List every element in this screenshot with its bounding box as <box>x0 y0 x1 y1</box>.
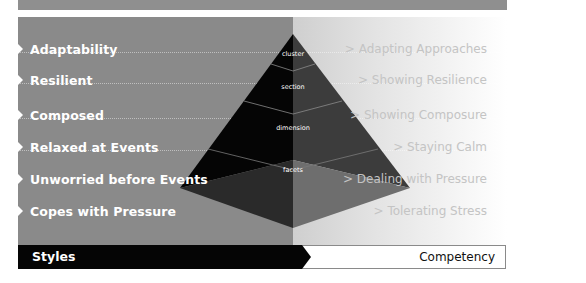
styles-footer-label: Styles <box>32 245 75 269</box>
competency-item: > Staying Calm <box>393 137 487 157</box>
competency-footer-label: Competency <box>419 246 495 268</box>
competency-item: > Tolerating Stress <box>374 201 487 221</box>
style-item: Composed <box>18 105 104 125</box>
pyramid-level-section: section <box>281 83 304 91</box>
competency-label: > Dealing with Pressure <box>343 172 487 186</box>
style-item: Adaptability <box>18 39 118 59</box>
style-label: Copes with Pressure <box>30 204 176 219</box>
styles-footer: Styles <box>18 245 302 269</box>
competency-label: > Showing Composure <box>350 108 487 122</box>
style-label: Relaxed at Events <box>30 140 159 155</box>
style-item: Copes with Pressure <box>18 201 176 221</box>
competency-label: > Staying Calm <box>393 140 487 154</box>
chevron-right-icon <box>18 142 23 152</box>
style-label: Adaptability <box>30 42 118 57</box>
chevron-right-icon <box>18 75 23 85</box>
style-item: Relaxed at Events <box>18 137 159 157</box>
competency-label: > Adapting Approaches <box>345 42 487 56</box>
style-label: Resilient <box>30 73 93 88</box>
chevron-right-icon <box>18 174 23 184</box>
arrow-right-icon <box>302 245 311 269</box>
style-label: Unworried before Events <box>30 172 208 187</box>
pyramid-level-dimension: dimension <box>276 124 310 132</box>
competency-item: > Adapting Approaches <box>345 39 487 59</box>
chevron-right-icon <box>18 44 23 54</box>
competency-item: > Showing Resilience <box>358 70 487 90</box>
chevron-right-icon <box>18 206 23 216</box>
competency-item: > Showing Composure <box>350 105 487 125</box>
chevron-right-icon <box>18 110 23 120</box>
diagram-panel: cluster section dimension facets Adaptab… <box>18 17 507 245</box>
competency-item: > Dealing with Pressure <box>343 169 487 189</box>
competency-footer: Competency <box>293 245 506 269</box>
style-item: Unworried before Events <box>18 169 208 189</box>
footer-bar: Competency Styles <box>18 245 507 269</box>
style-item: Resilient <box>18 70 93 90</box>
style-label: Composed <box>30 108 104 123</box>
top-bar <box>18 0 507 10</box>
competency-label: > Showing Resilience <box>358 73 487 87</box>
pyramid-level-cluster: cluster <box>282 50 304 58</box>
competency-label: > Tolerating Stress <box>374 204 487 218</box>
pyramid-level-facets: facets <box>283 166 303 174</box>
